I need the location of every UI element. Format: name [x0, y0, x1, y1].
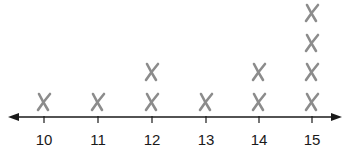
left-arrow-icon — [8, 113, 19, 121]
tick-label: 12 — [137, 131, 167, 148]
tick-label: 10 — [29, 131, 59, 148]
x-mark-icon — [249, 91, 269, 113]
x-mark-icon — [249, 61, 269, 83]
x-mark-icon — [302, 91, 322, 113]
tick-label: 11 — [83, 131, 113, 148]
tick-label: 13 — [191, 131, 221, 148]
line-plot: 101112131415 — [0, 0, 349, 157]
x-mark-icon — [142, 61, 162, 83]
x-mark-icon — [34, 91, 54, 113]
x-mark-icon — [142, 91, 162, 113]
x-mark-icon — [302, 32, 322, 54]
right-arrow-icon — [331, 113, 342, 121]
tick-label: 14 — [244, 131, 274, 148]
x-mark-icon — [302, 61, 322, 83]
x-mark-icon — [196, 91, 216, 113]
tick-label: 15 — [297, 131, 327, 148]
x-mark-icon — [88, 91, 108, 113]
x-mark-icon — [302, 2, 322, 24]
